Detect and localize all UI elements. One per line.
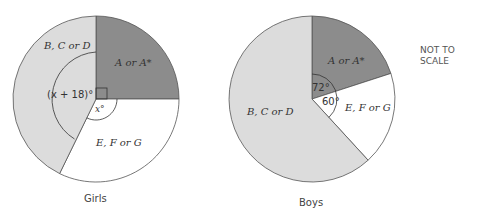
girls-pie [13, 16, 179, 182]
girls-caption: Girls [84, 193, 107, 204]
boys-pie [229, 16, 395, 182]
not-to-scale-note: NOT TO SCALE [420, 45, 455, 67]
girls-label-bcd: B, C or D [44, 40, 91, 51]
note-line-2: SCALE [420, 56, 455, 67]
boys-angle-a: 72° [312, 82, 330, 93]
pie-diagrams [0, 0, 478, 215]
girls-label-a: A or A* [115, 57, 152, 68]
boys-label-bcd: B, C or D [247, 106, 294, 117]
boys-label-a: A or A* [328, 55, 365, 66]
boys-caption: Boys [299, 197, 323, 208]
boys-label-efg: E, F or G [345, 102, 391, 113]
girls-label-efg: E, F or G [96, 137, 142, 148]
boys-angle-efg: 60° [322, 96, 340, 107]
girls-angle-bcd: (x + 18)° [47, 89, 93, 100]
note-line-1: NOT TO [420, 45, 455, 56]
girls-angle-efg: x° [95, 104, 105, 114]
